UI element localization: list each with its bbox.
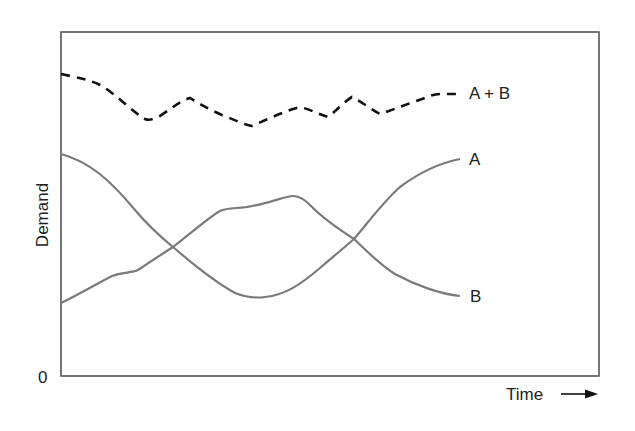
x-axis-label: Time [506,386,543,403]
series-a-label: A [469,151,480,168]
series-a-plus-b-line [61,74,457,126]
x-axis-arrow-icon [561,390,598,399]
y-axis-label: Demand [33,183,53,247]
origin-label: 0 [38,369,47,386]
series-b-label: B [470,288,481,305]
plot-frame [61,32,599,376]
series-b-line [61,196,460,303]
series-a-plus-b-label: A + B [469,85,510,102]
chart-canvas [0,0,635,431]
